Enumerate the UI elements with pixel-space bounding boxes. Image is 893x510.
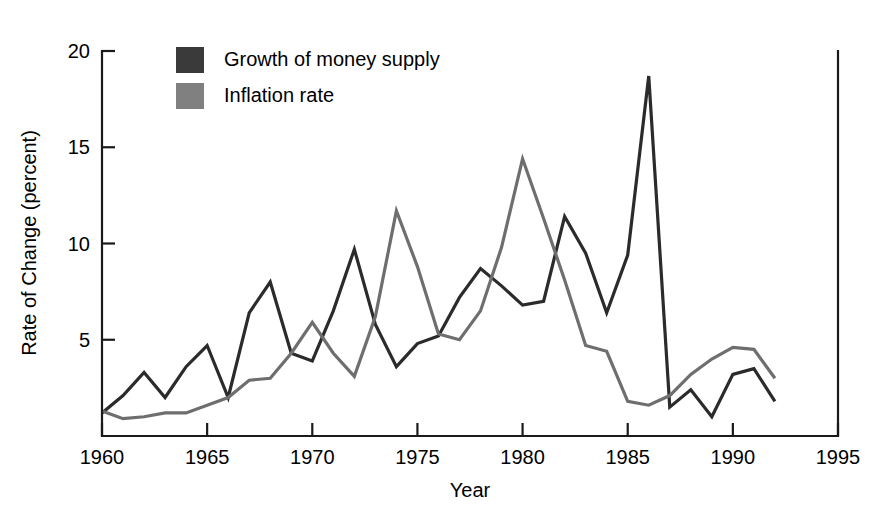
y-tick-label: 10 — [68, 233, 90, 255]
chart-legend: Growth of money supplyInflation rate — [176, 47, 440, 109]
x-tick-label: 1990 — [711, 446, 756, 468]
x-tick-label: 1975 — [395, 446, 440, 468]
y-tick-label: 5 — [79, 329, 90, 351]
axis-ticks — [102, 51, 838, 436]
chart-container: 510152019601965197019751980198519901995 … — [0, 0, 893, 510]
axes — [102, 51, 838, 436]
x-tick-label: 1980 — [500, 446, 545, 468]
x-tick-label: 1960 — [80, 446, 125, 468]
y-axis-title: Rate of Change (percent) — [18, 130, 40, 356]
x-tick-label: 1985 — [605, 446, 650, 468]
plot-area — [102, 76, 775, 419]
line-chart: 510152019601965197019751980198519901995 … — [0, 0, 893, 510]
axis-frame — [102, 51, 838, 436]
x-tick-label: 1970 — [290, 446, 335, 468]
legend-swatch — [176, 83, 204, 109]
x-axis-title: Year — [450, 479, 491, 501]
legend-label: Inflation rate — [224, 84, 334, 106]
legend-swatch — [176, 47, 204, 73]
legend-label: Growth of money supply — [224, 48, 440, 70]
x-tick-label: 1995 — [816, 446, 861, 468]
y-tick-label: 20 — [68, 40, 90, 62]
series-line-growth-of-money-supply — [102, 76, 775, 417]
x-tick-label: 1965 — [185, 446, 230, 468]
series-line-inflation-rate — [102, 159, 775, 419]
y-tick-label: 15 — [68, 136, 90, 158]
